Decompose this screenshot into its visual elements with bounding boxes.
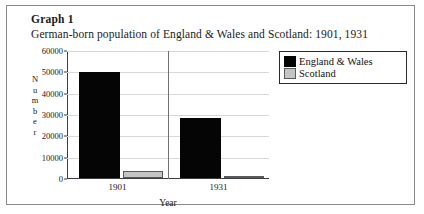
y-axis-title-letter: b xyxy=(29,106,41,117)
y-axis-tick-label: 20000 xyxy=(42,131,63,141)
figure-frame: Graph 1 German-born population of Englan… xyxy=(6,5,415,205)
y-axis-title-letter: m xyxy=(29,95,41,106)
bar-england-wales-1901[interactable] xyxy=(79,72,119,178)
bar-group-1901 xyxy=(67,51,168,178)
legend-item-england-wales[interactable]: England & Wales xyxy=(284,56,402,67)
bar-scotland-1901[interactable] xyxy=(123,171,163,178)
bar-chart: Number 0100002000030000400005000060000 1… xyxy=(7,6,416,206)
y-axis-title-letter: N xyxy=(29,74,41,85)
y-axis-title-letter: r xyxy=(29,127,41,138)
y-axis-tick-label: 50000 xyxy=(42,67,63,77)
y-axis-tick-label: 10000 xyxy=(42,153,63,163)
y-axis-title-letter: u xyxy=(29,85,41,96)
bar-england-wales-1931[interactable] xyxy=(180,118,220,178)
x-axis-tick-label-1901: 1901 xyxy=(67,182,168,192)
x-axis-title: Year xyxy=(67,198,269,208)
y-axis-title-letter: e xyxy=(29,116,41,127)
y-axis-tick-mark xyxy=(64,179,67,180)
y-axis-tick-label: 40000 xyxy=(42,89,63,99)
legend-item-scotland[interactable]: Scotland xyxy=(284,68,402,79)
bar-group-1931 xyxy=(168,51,269,178)
legend-label: Scotland xyxy=(299,68,336,79)
chart-legend: England & WalesScotland xyxy=(279,51,407,84)
bar-scotland-1931[interactable] xyxy=(224,176,264,178)
y-axis-tick-label: 30000 xyxy=(42,110,63,120)
y-axis-tick-label: 60000 xyxy=(42,46,63,56)
legend-swatch-icon xyxy=(284,56,296,67)
legend-swatch-icon xyxy=(284,68,296,79)
y-axis-tick-label: 0 xyxy=(59,174,63,184)
plot-area: 0100002000030000400005000060000 19011931 xyxy=(67,51,269,179)
legend-label: England & Wales xyxy=(299,56,373,67)
y-axis-title: Number xyxy=(29,74,41,137)
x-axis-tick-label-1931: 1931 xyxy=(168,182,269,192)
